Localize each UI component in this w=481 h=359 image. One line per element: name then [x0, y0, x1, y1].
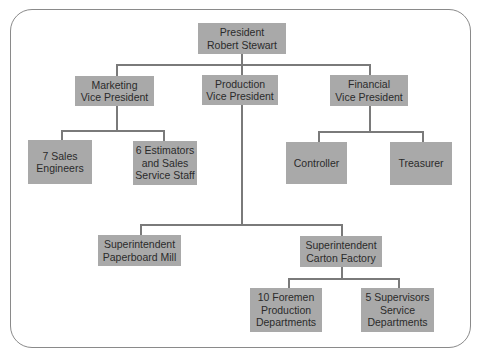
connector-line: [318, 131, 423, 133]
node-treasurer: Treasurer: [390, 142, 452, 185]
node-foremen: 10 Foremen Production Departments: [250, 288, 322, 332]
node-production-vp: Production Vice President: [202, 75, 278, 105]
connector-line: [61, 130, 164, 132]
node-controller: Controller: [286, 142, 347, 184]
connector-line: [318, 131, 320, 142]
connector-line: [288, 278, 399, 280]
connector-line: [116, 64, 370, 66]
connector-line: [163, 130, 165, 141]
node-supt-paperboard: Superintendent Paperboard Mill: [98, 235, 181, 266]
connector-line: [369, 106, 371, 131]
connector-line: [422, 131, 424, 142]
connector-line: [116, 106, 118, 130]
connector-line: [288, 278, 290, 288]
connector-line: [140, 224, 342, 226]
connector-line: [116, 64, 118, 76]
node-estimators: 6 Estimators and Sales Service Staff: [133, 141, 197, 185]
node-supt-carton: Superintendent Carton Factory: [300, 236, 382, 267]
node-sales-engineers: 7 Sales Engineers: [28, 140, 92, 184]
node-financial-vp: Financial Vice President: [330, 75, 408, 106]
connector-line: [398, 278, 400, 288]
connector-line: [140, 224, 142, 235]
connector-line: [241, 105, 243, 224]
connector-line: [341, 267, 343, 278]
node-president: President Robert Stewart: [198, 23, 286, 54]
node-marketing-vp: Marketing Vice President: [75, 76, 154, 106]
node-supervisors: 5 Supervisors Service Departments: [361, 288, 434, 332]
connector-line: [341, 224, 343, 236]
